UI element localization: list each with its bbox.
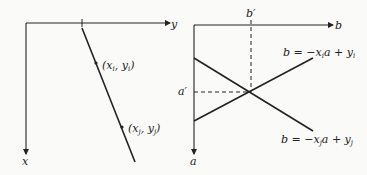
a-prime-label: a′ bbox=[178, 85, 188, 98]
diagram-canvas: y x (xi, yi) (xj, yj) b a b′ a′ b = −xia… bbox=[0, 0, 367, 175]
x-axis-label: x bbox=[22, 155, 29, 168]
point-j-label: (xj, yj) bbox=[128, 122, 160, 136]
b-axis-label: b bbox=[335, 19, 342, 32]
point-j-marker bbox=[120, 125, 123, 128]
data-line bbox=[82, 28, 135, 162]
line-j-equation: b = −xja + yj bbox=[281, 133, 354, 147]
line-i-equation: b = −xia + yi bbox=[283, 46, 355, 60]
left-panel: y x (xi, yi) (xj, yj) bbox=[22, 18, 178, 168]
point-i-marker bbox=[94, 61, 97, 64]
a-axis-label: a bbox=[190, 155, 197, 168]
right-panel: b a b′ a′ b = −xia + yi b = −xja + yj bbox=[178, 7, 355, 168]
y-axis-label: y bbox=[170, 18, 178, 31]
line-j bbox=[194, 58, 313, 131]
b-prime-label: b′ bbox=[246, 7, 256, 20]
line-i bbox=[194, 58, 313, 121]
point-i-label: (xi, yi) bbox=[102, 59, 135, 73]
